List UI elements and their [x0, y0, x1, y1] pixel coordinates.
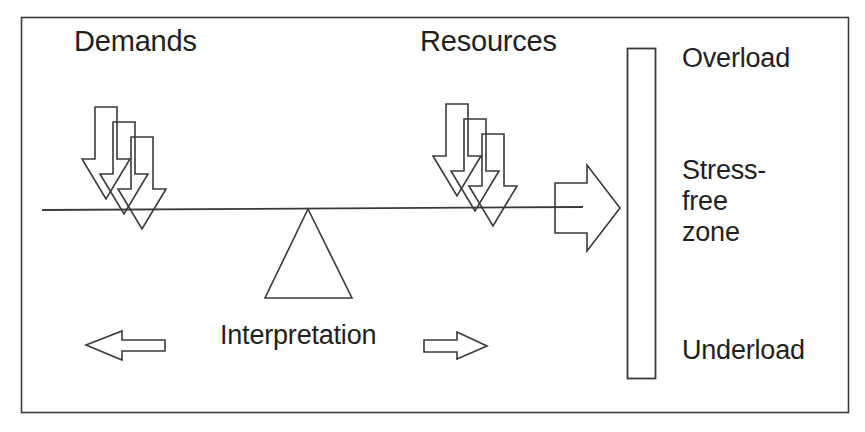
label-overload: Overload [682, 45, 790, 73]
label-interpretation: Interpretation [220, 322, 376, 350]
fulcrum-triangle [265, 209, 352, 298]
label-demands: Demands [74, 27, 197, 57]
demand-arrow-group [82, 107, 166, 229]
label-stress-free-zone: Stress- free zone [682, 155, 766, 247]
stress-scale-bar [628, 49, 656, 379]
interpretation-right-arrow [424, 332, 487, 359]
balance-beam [42, 207, 583, 210]
diagram-canvas: Demands Resources Overload Stress- free … [0, 0, 865, 432]
interpretation-left-arrow [86, 331, 165, 360]
label-underload: Underload [682, 337, 805, 365]
label-resources: Resources [420, 27, 557, 57]
